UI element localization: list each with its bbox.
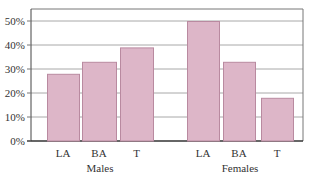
x-tick-label: BA (91, 147, 106, 159)
y-tick-label: 0% (10, 135, 25, 147)
y-tick-label: 20% (5, 87, 25, 99)
bar-females-t (262, 98, 294, 141)
y-tick-label: 40% (5, 39, 25, 51)
bar-females-ba (224, 62, 256, 141)
bar-females-la (188, 22, 220, 142)
x-tick-label: BA (231, 147, 246, 159)
grouped-bar-chart: 0%10%20%30%40%50% LABATLABATMalesFemales (0, 0, 310, 175)
bar-males-la (48, 74, 80, 141)
y-tick-label: 10% (5, 111, 25, 123)
y-axis: 0%10%20%30%40%50% (5, 15, 31, 147)
bar-males-t (121, 48, 154, 141)
group-label-females: Females (222, 162, 259, 174)
bars (48, 22, 294, 142)
x-axis: LABATLABATMalesFemales (56, 147, 281, 174)
y-tick-label: 30% (5, 63, 25, 75)
group-label-males: Males (87, 162, 114, 174)
x-tick-label: T (274, 147, 281, 159)
x-tick-label: LA (196, 147, 211, 159)
bar-males-ba (83, 62, 117, 141)
x-tick-label: T (133, 147, 140, 159)
x-tick-label: LA (56, 147, 71, 159)
y-tick-label: 50% (5, 15, 25, 27)
